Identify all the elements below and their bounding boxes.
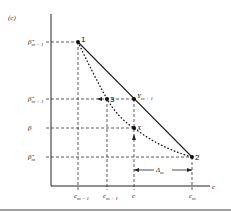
x-axis-label: c	[212, 183, 216, 191]
x-tick-c-m-minus-1: cm − 1	[74, 192, 89, 201]
point-y-label: Ym + 1	[137, 92, 153, 101]
point-x-label: X	[136, 124, 142, 132]
arrow-up-icon	[132, 134, 136, 140]
vertical-guides	[78, 42, 192, 190]
arrow-left-icon	[97, 97, 102, 101]
x-tick-c-m: cm	[189, 192, 196, 201]
point-y	[132, 97, 136, 101]
arrow-y-to-3	[97, 97, 102, 101]
x-tick-c: c	[132, 192, 136, 200]
panel-label: (c)	[8, 14, 16, 22]
point-2	[190, 155, 194, 159]
point-2-label: 2	[195, 153, 200, 162]
arrow-up-to-x	[132, 134, 136, 140]
point-1-label: 1	[81, 35, 86, 44]
arrow-right-icon	[187, 168, 192, 172]
diagram-canvas: (c) c Δm	[0, 0, 231, 212]
y-tick-beta-m-plus-1: β̂m + 1	[27, 95, 44, 104]
point-3	[105, 97, 109, 101]
point-x	[132, 126, 136, 130]
point-3-label: 3	[110, 95, 115, 104]
point-1	[76, 40, 80, 44]
x-tick-c-m-plus-1: cm + 1	[103, 192, 118, 201]
y-tick-beta-m-minus-1: β̂m − 1	[27, 38, 44, 47]
y-tick-beta: β	[27, 124, 32, 132]
y-tick-beta-m: β̂m	[27, 153, 36, 162]
arrow-left-icon	[134, 168, 139, 172]
horizontal-guides	[46, 42, 192, 157]
delta-dimension: Δm	[134, 165, 192, 175]
